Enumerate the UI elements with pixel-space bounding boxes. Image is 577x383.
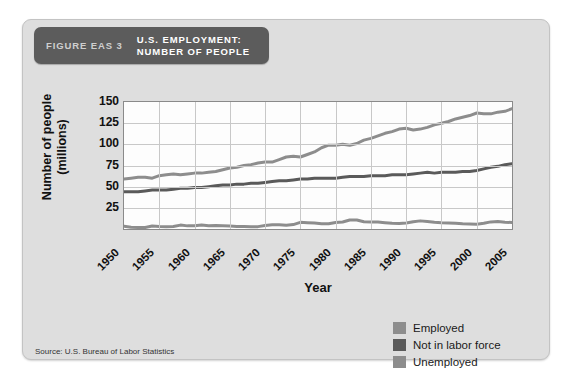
legend-item: Unemployed <box>393 353 553 370</box>
x-tick-label: 1950 <box>95 246 122 273</box>
y-tick-label: 100 <box>85 136 119 150</box>
y-axis-tick-labels: 255075100125150 <box>79 101 119 230</box>
gridline-horizontal <box>124 123 512 124</box>
gridline-vertical <box>159 102 160 229</box>
x-tick-label: 2000 <box>447 246 474 273</box>
y-tick-label: 75 <box>85 158 119 172</box>
x-tick-label: 1985 <box>342 246 369 273</box>
gridline-vertical <box>371 102 372 229</box>
legend-swatch <box>393 322 406 334</box>
figure-card: FIGURE EAS 3 U.S. EMPLOYMENT: NUMBER OF … <box>22 19 550 360</box>
x-tick-label: 1975 <box>271 246 298 273</box>
legend-label: Employed <box>413 322 464 334</box>
x-tick-label: 1970 <box>236 246 263 273</box>
gridline-vertical <box>265 102 266 229</box>
gridline-vertical <box>336 102 337 229</box>
source-note: Source: U.S. Bureau of Labor Statistics <box>35 347 174 356</box>
legend-item: Employed <box>393 319 553 336</box>
gridline-vertical <box>477 102 478 229</box>
y-axis-title: Number of people (millions) <box>40 77 70 217</box>
gridline-horizontal <box>124 144 512 145</box>
legend-swatch <box>393 356 406 368</box>
legend-label: Unemployed <box>413 356 478 368</box>
figure-title: U.S. EMPLOYMENT: NUMBER OF PEOPLE <box>137 34 250 58</box>
x-tick-label: 1990 <box>377 246 404 273</box>
y-tick-label: 25 <box>85 200 119 214</box>
gridline-vertical <box>406 102 407 229</box>
figure-title-banner: FIGURE EAS 3 U.S. EMPLOYMENT: NUMBER OF … <box>34 27 269 64</box>
gridline-vertical <box>300 102 301 229</box>
gridline-horizontal <box>124 166 512 167</box>
legend-item: Not in labor force <box>393 336 553 353</box>
gridline-vertical <box>441 102 442 229</box>
x-axis-title: Year <box>123 280 513 295</box>
x-tick-label: 1995 <box>412 246 439 273</box>
x-tick-label: 2005 <box>483 246 510 273</box>
plot-area <box>123 101 513 230</box>
gridline-horizontal <box>124 208 512 209</box>
y-tick-label: 125 <box>85 115 119 129</box>
x-axis-tick-labels: 1950195519601965197019751980198519901995… <box>123 232 513 276</box>
figure-label: FIGURE EAS 3 <box>46 40 123 51</box>
y-tick-label: 50 <box>85 179 119 193</box>
gridline-vertical <box>230 102 231 229</box>
legend-label: Not in labor force <box>413 339 501 351</box>
x-tick-label: 1960 <box>165 246 192 273</box>
series-line <box>124 220 512 228</box>
gridline-horizontal <box>124 187 512 188</box>
x-tick-label: 1965 <box>201 246 228 273</box>
legend-swatch <box>393 339 406 351</box>
y-tick-label: 150 <box>85 94 119 108</box>
x-tick-label: 1955 <box>130 246 157 273</box>
chart-region: Number of people (millions) 255075100125… <box>23 64 551 361</box>
gridline-vertical <box>195 102 196 229</box>
chart-legend: EmployedNot in labor forceUnemployed <box>393 319 553 370</box>
x-tick-label: 1980 <box>306 246 333 273</box>
